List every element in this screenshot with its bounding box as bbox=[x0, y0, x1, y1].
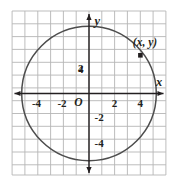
y-axis-label: y bbox=[93, 14, 101, 28]
y-tick-label-neg2: -2 bbox=[95, 111, 105, 123]
x-tick-label-pos4: 4 bbox=[138, 97, 144, 109]
x-tick-label-neg4: -4 bbox=[32, 97, 42, 109]
x-axis-label: x bbox=[155, 75, 162, 89]
x-tick-label-pos2: 2 bbox=[112, 97, 118, 109]
y-tick-label-neg4: -4 bbox=[95, 137, 105, 149]
x-axis-arrow-left bbox=[15, 91, 21, 96]
circle-graph-svg: y x O -4 -2 2 4 4 2 -2 -4 (x, y) bbox=[0, 0, 178, 184]
x-axis-arrow-right bbox=[158, 91, 164, 96]
point-label-xy: (x, y) bbox=[133, 36, 157, 49]
y-axis-arrow-up bbox=[86, 14, 91, 20]
origin-label: O bbox=[74, 96, 82, 108]
y-axis-arrow-down bbox=[86, 167, 91, 173]
coordinate-grid-figure: y x O -4 -2 2 4 4 2 -2 -4 (x, y) bbox=[0, 0, 178, 184]
x-tick-label-neg2: -2 bbox=[57, 97, 67, 109]
point-marker-xy bbox=[138, 53, 143, 58]
y-tick-label-2: 2 bbox=[78, 62, 84, 74]
